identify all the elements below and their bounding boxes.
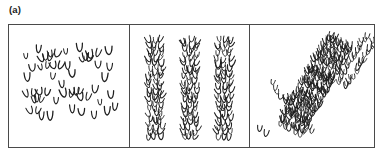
seedling-sprout-glyph [309, 128, 314, 134]
seedling-sprout-glyph [226, 134, 231, 141]
seedling-sprout-glyph [346, 60, 351, 66]
seedling-sprout-glyph [328, 66, 333, 71]
seedling-sprout-glyph [182, 95, 187, 102]
sprout-clump [24, 73, 31, 82]
seedling-sprout-glyph [57, 61, 65, 70]
regular-rows-subpanel [130, 25, 248, 147]
sprout-clump [64, 48, 68, 54]
seedling-sprout-glyph [59, 80, 65, 88]
seedling-sprout-glyph [35, 87, 44, 96]
seedling-sprout-glyph [36, 45, 42, 53]
sprout-clump [24, 53, 28, 59]
diagonal-bands-plot [250, 25, 374, 147]
seedling-sprout-glyph [38, 64, 44, 71]
random-dispersion-subpanel [10, 25, 128, 147]
seedling-sprout-glyph [65, 62, 71, 70]
seedling-sprout-glyph [273, 85, 278, 91]
seedling-sprout-glyph [91, 111, 96, 119]
seedling-sprout-glyph [69, 70, 76, 78]
sprout-clump [70, 105, 75, 113]
seedling-sprout-glyph [50, 73, 55, 80]
seedling-sprout-glyph [53, 49, 62, 58]
seedling-sprout-glyph [345, 63, 350, 69]
seedling-sprout-glyph [24, 73, 31, 82]
seedling-sprout-glyph [153, 37, 158, 43]
sprout-clump [47, 49, 61, 58]
seedling-sprout-glyph [22, 89, 29, 98]
seedling-sprout-glyph [54, 97, 59, 104]
seedling-sprout-glyph [26, 106, 34, 115]
sprout-band [278, 32, 352, 138]
seedling-sprout-glyph [44, 88, 51, 96]
seedling-sprout-glyph [322, 38, 327, 45]
sprout-clump [49, 61, 65, 70]
seedling-sprout-glyph [270, 79, 275, 85]
sprout-clump [36, 45, 42, 53]
sprout-clump [29, 64, 36, 72]
figure-frame [8, 24, 375, 148]
seedling-sprout-glyph [217, 36, 221, 42]
random-dispersion-plot [10, 25, 128, 147]
seedling-sprout-glyph [195, 124, 202, 132]
seedling-sprout-glyph [220, 45, 226, 52]
seedling-sprout-glyph [188, 68, 193, 75]
seedling-sprout-glyph [94, 48, 101, 57]
seedling-sprout-glyph [349, 56, 354, 62]
seedling-sprout-glyph [194, 87, 199, 94]
regular-rows-plot [130, 25, 248, 147]
sprout-clump [54, 97, 59, 104]
sprout-clump [104, 106, 110, 115]
seedling-sprout-glyph [157, 35, 163, 43]
seedling-sprout-glyph [59, 88, 68, 98]
seedling-sprout-glyph [29, 64, 36, 72]
seedling-sprout-glyph [181, 106, 186, 112]
sprout-clump [69, 70, 76, 78]
seedling-sprout-glyph [226, 123, 232, 130]
sprout-row [144, 35, 166, 140]
sprout-band [257, 125, 269, 137]
seedling-sprout-glyph [64, 48, 68, 54]
sprout-clump [59, 80, 65, 88]
seedling-sprout-glyph [148, 106, 152, 111]
seedling-sprout-glyph [76, 43, 82, 52]
sprout-clump [65, 62, 71, 70]
sprout-clump [37, 53, 53, 63]
seedling-sprout-glyph [78, 108, 85, 115]
seedling-sprout-glyph [282, 110, 286, 117]
seedling-sprout-glyph [185, 132, 191, 140]
seedling-sprout-glyph [105, 46, 112, 55]
sprout-clump [112, 103, 118, 111]
seedling-sprout-glyph [39, 112, 44, 120]
sprout-clump [76, 43, 82, 52]
seedling-sprout-glyph [228, 85, 235, 93]
seedling-sprout-glyph [107, 63, 113, 71]
seedling-sprout-glyph [216, 135, 221, 141]
figure-root: (a) [0, 0, 384, 154]
sprout-clump [101, 73, 108, 82]
seedling-sprout-glyph [227, 47, 233, 53]
seedling-sprout-glyph [34, 107, 41, 115]
sprout-clump [39, 112, 44, 120]
sprout-clump [108, 91, 114, 99]
seedling-sprout-glyph [95, 61, 101, 68]
seedling-sprout-glyph [229, 93, 234, 99]
sprout-clump [92, 85, 99, 93]
seedling-sprout-glyph [104, 106, 110, 115]
sprout-row [179, 36, 201, 141]
seedling-sprout-glyph [70, 105, 75, 113]
seedling-sprout-glyph [108, 91, 114, 99]
seedling-sprout-glyph [146, 79, 151, 86]
seedling-sprout-glyph [157, 42, 164, 50]
seedling-sprout-glyph [112, 103, 118, 111]
seedling-sprout-glyph [38, 96, 44, 103]
seedling-sprout-glyph [221, 125, 227, 132]
sprout-clump [95, 61, 101, 68]
seedling-sprout-glyph [145, 95, 152, 103]
seedling-sprout-glyph [24, 53, 28, 59]
sprout-clump [47, 111, 53, 120]
diagonal-bands-subpanel [250, 25, 374, 147]
sprout-clump [107, 63, 113, 71]
seedling-sprout-glyph [153, 49, 158, 55]
seedling-sprout-glyph [145, 111, 152, 118]
sprout-clump [91, 111, 96, 119]
